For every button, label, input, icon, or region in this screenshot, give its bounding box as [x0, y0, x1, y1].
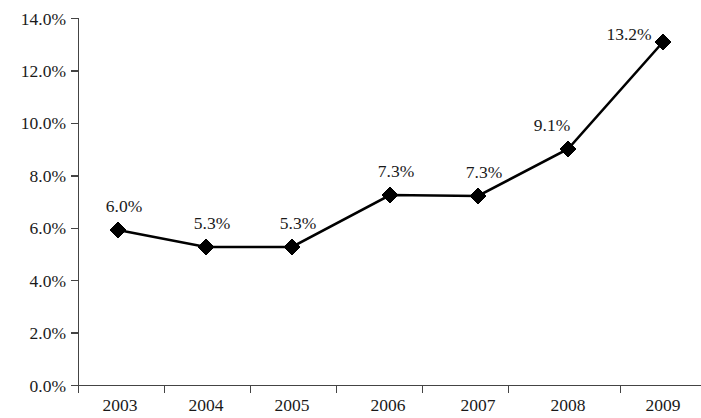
y-tick-label: 10.0%: [21, 113, 66, 133]
x-tick-label: 2004: [189, 395, 224, 415]
y-tick-label: 4.0%: [30, 271, 66, 291]
data-label: 6.0%: [106, 196, 142, 216]
y-tick-label: 14.0%: [21, 9, 66, 29]
y-tick-label: 0.0%: [30, 376, 66, 396]
line-chart: 14.0% 12.0% 10.0% 8.0% 6.0% 4.0% 2.0% 0.…: [0, 0, 701, 418]
data-label: 5.3%: [280, 213, 316, 233]
x-tick-label: 2008: [551, 395, 586, 415]
x-tick-label: 2006: [371, 395, 406, 415]
x-tick-label: 2003: [103, 395, 138, 415]
y-tick-label: 6.0%: [30, 218, 66, 238]
y-tick-label: 8.0%: [30, 166, 66, 186]
data-label: 9.1%: [534, 115, 570, 135]
x-tick-label: 2005: [275, 395, 310, 415]
data-label: 7.3%: [378, 161, 414, 181]
data-label: 7.3%: [466, 162, 502, 182]
x-tick-label: 2009: [646, 395, 681, 415]
data-label: 13.2%: [606, 24, 651, 44]
chart-canvas: 14.0% 12.0% 10.0% 8.0% 6.0% 4.0% 2.0% 0.…: [0, 0, 701, 418]
data-label: 5.3%: [194, 213, 230, 233]
x-tick-label: 2007: [461, 395, 496, 415]
y-tick-label: 2.0%: [30, 323, 66, 343]
y-tick-label: 12.0%: [21, 61, 66, 81]
